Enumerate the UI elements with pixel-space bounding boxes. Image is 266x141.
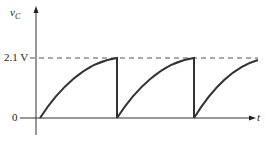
x-axis-arrow-icon — [249, 116, 256, 121]
y-tick-zero: 0 — [12, 111, 18, 123]
y-axis-arrow-icon — [34, 6, 39, 13]
y-tick-2.1v: 2.1 V — [4, 51, 28, 63]
charge-cycle-3 — [194, 60, 258, 118]
vc-waveform — [40, 58, 258, 118]
y-axis-label: vC — [10, 6, 20, 21]
charge-cycle-2 — [117, 58, 194, 118]
charge-cycle-1 — [40, 58, 117, 118]
x-axis-label: t — [257, 111, 260, 123]
chart-canvas — [0, 0, 266, 141]
